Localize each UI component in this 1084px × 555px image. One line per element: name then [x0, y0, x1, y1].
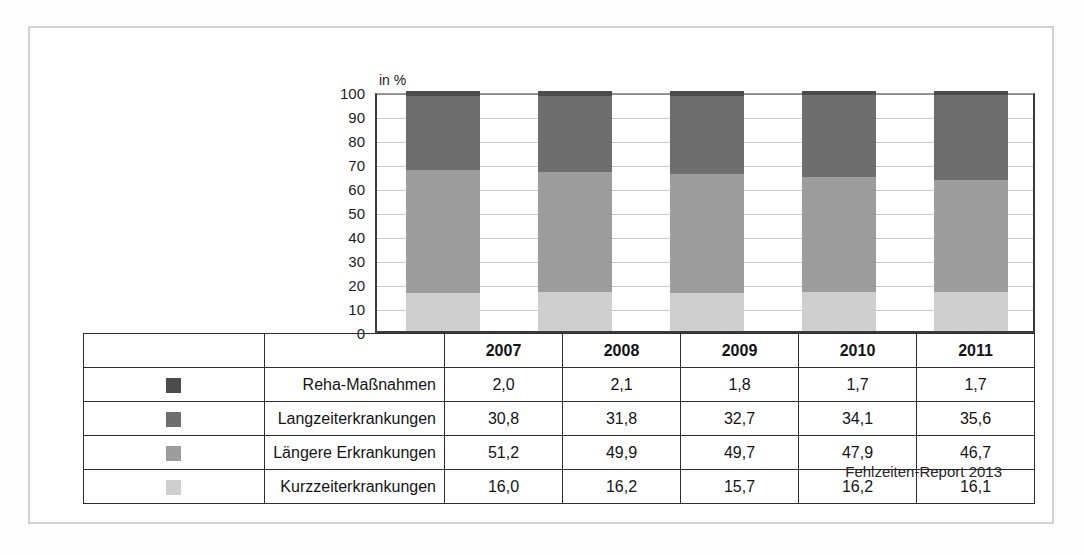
- bar-2007: [406, 91, 480, 331]
- figure-page: in % 1009080706050403020100 200720082009…: [0, 0, 1084, 555]
- bar-2008: [538, 91, 612, 331]
- legend-swatch-icon: [166, 446, 181, 461]
- header-blank-label: [264, 334, 445, 368]
- y-tick-label-10: 10: [348, 302, 365, 317]
- bar-segment-2011-langzeiterkrankungen: [934, 95, 1008, 180]
- y-tick-label-20: 20: [348, 278, 365, 293]
- y-tick-label-50: 50: [348, 206, 365, 221]
- y-tick-label-90: 90: [348, 110, 365, 125]
- bar-segment-2009-kurzzeiterkrankungen: [670, 293, 744, 331]
- legend-swatch-cell: [84, 368, 265, 402]
- bar-segment-2010-langzeiterkrankungen: [802, 95, 876, 177]
- cell-2007-r2: 51,2: [445, 436, 563, 470]
- bar-segment-2010-kurzzeiterkrankungen: [802, 292, 876, 331]
- table-header-year-2007: 2007: [445, 334, 563, 368]
- legend-swatch-cell: [84, 470, 265, 504]
- chart-plot-area: [375, 93, 1035, 333]
- category-label: Reha-Maßnahmen: [264, 368, 445, 402]
- bar-segment-2011-l-ngere-erkrankungen: [934, 180, 1008, 292]
- bar-segment-2007-l-ngere-erkrankungen: [406, 170, 480, 293]
- cell-2008-r3: 16,2: [563, 470, 681, 504]
- figure-frame: in % 1009080706050403020100 200720082009…: [28, 26, 1054, 524]
- plot-background: [375, 93, 1035, 333]
- cell-2009-r0: 1,8: [681, 368, 799, 402]
- cell-2009-r1: 32,7: [681, 402, 799, 436]
- y-tick-label-70: 70: [348, 158, 365, 173]
- y-tick-label-60: 60: [348, 182, 365, 197]
- cell-2007-r0: 2,0: [445, 368, 563, 402]
- legend-swatch-icon: [166, 480, 181, 495]
- table-row: Reha-Maßnahmen2,02,11,81,71,7: [84, 368, 1035, 402]
- bar-segment-2007-langzeiterkrankungen: [406, 96, 480, 170]
- cell-2011-r1: 35,6: [917, 402, 1035, 436]
- bar-segment-2008-langzeiterkrankungen: [538, 96, 612, 172]
- source-footer: Fehlzeiten-Report 2013: [845, 463, 1002, 480]
- cell-2009-r2: 49,7: [681, 436, 799, 470]
- cell-2008-r0: 2,1: [563, 368, 681, 402]
- bar-segment-2009-langzeiterkrankungen: [670, 96, 744, 174]
- category-label: Kurzzeiterkrankungen: [264, 470, 445, 504]
- bar-segment-2010-l-ngere-erkrankungen: [802, 177, 876, 292]
- bar-2011: [934, 91, 1008, 331]
- cell-2009-r3: 15,7: [681, 470, 799, 504]
- y-tick-label-100: 100: [340, 86, 365, 101]
- legend-swatch-icon: [166, 378, 181, 393]
- table-header-year-2009: 2009: [681, 334, 799, 368]
- bar-2009: [670, 91, 744, 331]
- table-header-year-2010: 2010: [799, 334, 917, 368]
- category-label: Längere Erkrankungen: [264, 436, 445, 470]
- table-header-row: 20072008200920102011: [84, 334, 1035, 368]
- cell-2010-r0: 1,7: [799, 368, 917, 402]
- y-tick-label-30: 30: [348, 254, 365, 269]
- table-header-year-2011: 2011: [917, 334, 1035, 368]
- axis-unit-label: in %: [379, 72, 406, 88]
- table-row: Langzeiterkrankungen30,831,832,734,135,6: [84, 402, 1035, 436]
- header-blank-swatch: [84, 334, 265, 368]
- legend-swatch-cell: [84, 402, 265, 436]
- bar-segment-2008-l-ngere-erkrankungen: [538, 172, 612, 292]
- legend-swatch-icon: [166, 412, 181, 427]
- bar-segment-2009-l-ngere-erkrankungen: [670, 174, 744, 293]
- legend-swatch-cell: [84, 436, 265, 470]
- cell-2010-r1: 34,1: [799, 402, 917, 436]
- cell-2007-r1: 30,8: [445, 402, 563, 436]
- bar-2010: [802, 91, 876, 331]
- bar-segment-2008-kurzzeiterkrankungen: [538, 292, 612, 331]
- y-axis-tick-labels: 1009080706050403020100: [323, 85, 371, 337]
- table-header-year-2008: 2008: [563, 334, 681, 368]
- cell-2008-r2: 49,9: [563, 436, 681, 470]
- cell-2008-r1: 31,8: [563, 402, 681, 436]
- cell-2007-r3: 16,0: [445, 470, 563, 504]
- bar-segment-2007-kurzzeiterkrankungen: [406, 293, 480, 331]
- cell-2011-r0: 1,7: [917, 368, 1035, 402]
- y-tick-label-40: 40: [348, 230, 365, 245]
- y-tick-label-80: 80: [348, 134, 365, 149]
- category-label: Langzeiterkrankungen: [264, 402, 445, 436]
- bar-segment-2011-kurzzeiterkrankungen: [934, 292, 1008, 331]
